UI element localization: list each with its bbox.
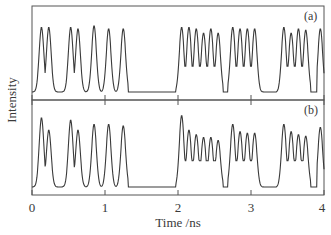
y-axis-title: Intensity xyxy=(4,77,20,123)
figure xyxy=(0,0,331,235)
panel-b-label: (b) xyxy=(304,103,318,118)
trace-panel-a xyxy=(32,26,324,92)
x-axis-title: Time /ns xyxy=(155,215,200,231)
x-tick-label-0: 0 xyxy=(29,200,36,216)
x-tick-label-2: 2 xyxy=(175,200,182,216)
x-tick-label-4: 4 xyxy=(319,200,326,216)
trace-panel-b xyxy=(32,116,324,187)
x-tick-label-3: 3 xyxy=(248,200,255,216)
x-tick-label-1: 1 xyxy=(102,200,109,216)
panel-a-label: (a) xyxy=(304,9,317,24)
